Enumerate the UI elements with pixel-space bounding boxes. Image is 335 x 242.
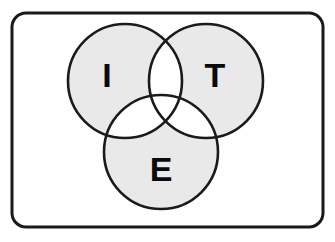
diagram-canvas: I T E (0, 0, 335, 242)
region-fill-e-only (0, 0, 335, 242)
venn-label-t: T (205, 56, 226, 94)
venn-diagram-svg: I T E (0, 0, 335, 242)
venn-label-i: I (102, 56, 111, 94)
venn-label-e: E (150, 150, 173, 188)
venn-region-fills (0, 0, 335, 242)
